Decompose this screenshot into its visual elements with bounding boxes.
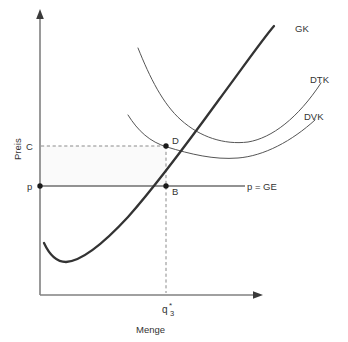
label-price-equals-ge: p = GE bbox=[247, 181, 277, 192]
label-x-axis-menge: Menge bbox=[136, 324, 165, 335]
x-axis-arrow-icon bbox=[253, 291, 263, 299]
shaded-region-rect bbox=[40, 146, 166, 186]
chart-canvas: GK DTK DVK p = GE D B C p Preis q * 3 Me… bbox=[0, 0, 348, 342]
point-d-marker bbox=[163, 143, 168, 148]
label-tick-q3-base: q bbox=[162, 304, 168, 315]
label-curve-dtk: DTK bbox=[310, 74, 330, 85]
label-tick-q3-subscript: 3 bbox=[170, 309, 174, 318]
label-y-axis-preis: Preis bbox=[12, 138, 23, 160]
y-axis-arrow-icon bbox=[36, 9, 44, 19]
label-point-d: D bbox=[172, 135, 179, 146]
economics-diagram: GK DTK DVK p = GE D B C p Preis q * 3 Me… bbox=[0, 0, 348, 342]
curve-dtk bbox=[138, 48, 321, 143]
label-point-b: B bbox=[172, 186, 178, 197]
label-curve-gk: GK bbox=[295, 23, 309, 34]
label-tick-c: C bbox=[26, 141, 33, 152]
label-curve-dvk: DVK bbox=[304, 111, 324, 122]
label-tick-p: p bbox=[27, 181, 32, 192]
point-p-axis-marker bbox=[37, 183, 42, 188]
point-b-marker bbox=[163, 183, 168, 188]
